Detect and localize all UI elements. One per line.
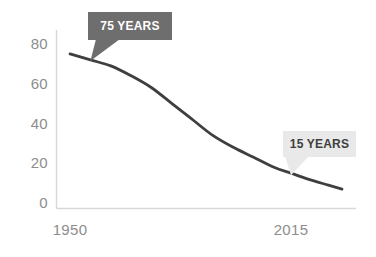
annotation-label-15-years[interactable]: 15 YEARS: [283, 131, 356, 157]
chart-container: 020406080 19502015 75 YEARS 15 YEARS: [0, 0, 376, 257]
annotation-label-75-years[interactable]: 75 YEARS: [88, 12, 172, 40]
annotation-pointer-75-years: [90, 39, 120, 61]
annotation-pointer-15-years: [285, 156, 309, 175]
callout-pointer-layer: [0, 0, 376, 257]
